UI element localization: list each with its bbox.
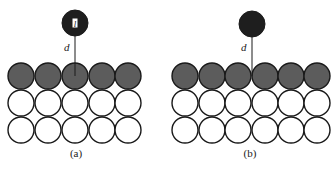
bulk-atom (62, 90, 88, 116)
bulk-atom (304, 117, 330, 143)
surface-atom (304, 63, 330, 89)
bulk-atom (225, 90, 251, 116)
bulk-atom (278, 90, 304, 116)
surface-atom (225, 63, 251, 89)
bulk-atom (89, 90, 115, 116)
bulk-atom (115, 90, 141, 116)
surface-atom (8, 63, 34, 89)
panel-a: ld(a) (8, 10, 141, 160)
adatom (239, 11, 265, 37)
distance-label: d (64, 41, 70, 53)
bulk-atom (89, 117, 115, 143)
bulk-atom (199, 117, 225, 143)
bulk-layer-row (8, 117, 141, 143)
bulk-atom (252, 117, 278, 143)
bulk-atom (115, 117, 141, 143)
bulk-atom (35, 90, 61, 116)
panel-caption: (a) (70, 147, 83, 160)
bulk-atom (278, 117, 304, 143)
surface-layer-row (172, 63, 330, 89)
surface-atom (172, 63, 198, 89)
surface-atom (115, 63, 141, 89)
distance-label: d (241, 41, 247, 53)
surface-atom (252, 63, 278, 89)
bulk-atom (199, 90, 225, 116)
bulk-atom (252, 90, 278, 116)
bulk-layer-row (172, 90, 330, 116)
surface-atom (35, 63, 61, 89)
panel-caption: (b) (244, 147, 257, 160)
bulk-atom (172, 90, 198, 116)
bulk-layer-row (172, 117, 330, 143)
surface-atom (278, 63, 304, 89)
bulk-atom (225, 117, 251, 143)
bulk-layer-row (8, 90, 141, 116)
bulk-atom (8, 90, 34, 116)
surface-atom (199, 63, 225, 89)
bulk-atom (35, 117, 61, 143)
bulk-atom (8, 117, 34, 143)
surface-atom (89, 63, 115, 89)
bulk-atom (62, 117, 88, 143)
bulk-atom (172, 117, 198, 143)
panel-b: d(b) (172, 11, 330, 160)
bulk-atom (304, 90, 330, 116)
adatom-surface-diagram: ld(a) d(b) (0, 0, 335, 172)
